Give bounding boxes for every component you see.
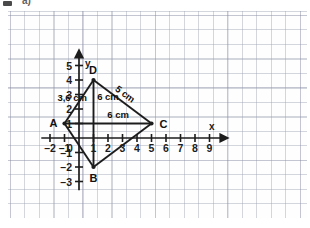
x-tick-label: 9: [207, 142, 213, 154]
segment-ad-length: 3,6 cm: [57, 92, 87, 103]
x-tick-label: 7: [178, 142, 184, 154]
segment-ac-length: 6 cm: [107, 109, 129, 120]
y-tick-label: 4: [66, 74, 72, 86]
worksheet-figure: a) x y –2–10123456789 –3–2–112345 ABCD 3…: [0, 0, 310, 228]
x-tick-label: 5: [149, 142, 155, 154]
vertex-point-b: [91, 165, 95, 169]
x-tick-label: 8: [192, 142, 198, 154]
x-tick-label: 6: [163, 142, 169, 154]
vertex-point-a: [62, 121, 66, 125]
y-tick-label: 5: [66, 60, 72, 72]
vertex-label-a: A: [50, 117, 58, 129]
vertex-label-c: C: [160, 118, 168, 130]
vertex-point-d: [91, 78, 95, 82]
y-tick-label: –1: [60, 147, 72, 159]
vertex-point-c: [149, 121, 153, 125]
x-tick-label: 4: [134, 142, 140, 154]
coordinate-plot: x y –2–10123456789 –3–2–112345 ABCD 3,6 …: [0, 0, 310, 228]
y-tick-label: –3: [60, 176, 72, 188]
x-tick-label: 2: [105, 142, 111, 154]
vertex-label-b: B: [90, 172, 98, 184]
x-axis-label: x: [209, 121, 215, 132]
y-tick-label: –2: [60, 161, 72, 173]
segment-cb: [94, 124, 152, 168]
x-tick-label: –2: [44, 142, 56, 154]
vertex-label-d: D: [89, 64, 97, 76]
